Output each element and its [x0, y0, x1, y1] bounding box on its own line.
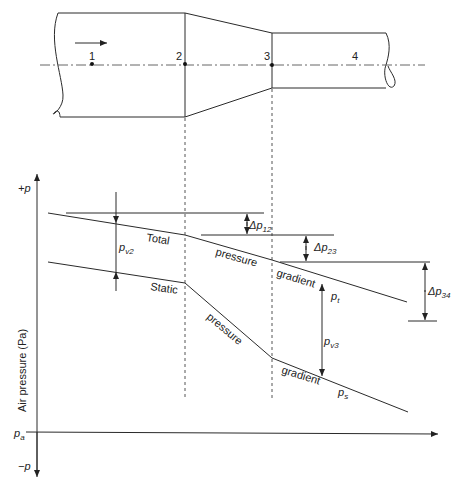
pv2-label: pv2	[118, 241, 134, 256]
station-3-label: 3	[264, 50, 270, 62]
duct-break-right	[385, 33, 395, 87]
station-1-label: 1	[89, 50, 95, 62]
station-4-label: 4	[352, 50, 358, 62]
pt-label: pt	[330, 290, 340, 305]
station-2-point	[183, 62, 187, 66]
total-label: Total	[146, 231, 171, 246]
station-1-point	[90, 62, 94, 66]
duct-drawing: 1 2 3 4	[40, 13, 425, 117]
ps-label: ps	[337, 386, 348, 401]
total-gradient-label: gradient	[275, 266, 317, 289]
station-3-point	[270, 63, 274, 67]
dp23-label: Δp23	[313, 241, 337, 256]
y-positive-label: +p	[18, 182, 31, 194]
total-pressure-label: pressure	[214, 245, 258, 268]
dp34-label: Δp34	[427, 285, 451, 300]
station-2-label: 2	[176, 50, 182, 62]
x-axis	[26, 432, 438, 434]
static-pressure-label: pressure	[205, 310, 245, 347]
dp12-label: Δp12	[248, 219, 272, 234]
y-axis-title: Air pressure (Pa)	[16, 329, 28, 412]
static-gradient-label: gradient	[280, 363, 322, 386]
static-label: Static	[150, 280, 179, 296]
y-negative-label: −p	[18, 460, 31, 472]
pv3-label: pv3	[323, 335, 339, 350]
pressure-gradient-diagram: 1 2 3 4 +p −p Air pressure (Pa) pa pv2 Δ…	[0, 0, 465, 491]
pa-label: pa	[13, 427, 25, 442]
